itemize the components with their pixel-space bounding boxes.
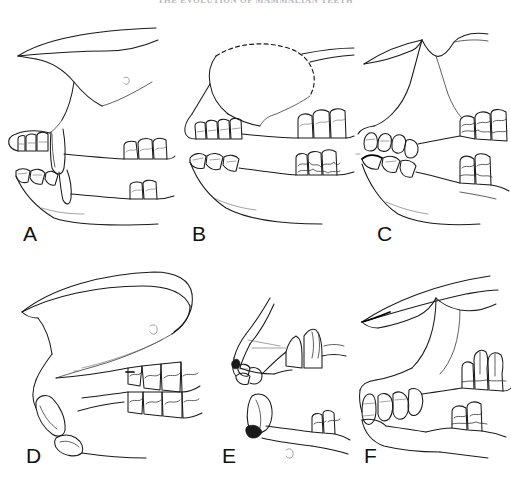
panel-e-mandible	[246, 394, 350, 454]
panel-f-upper-teeth	[362, 350, 511, 424]
panel-label-f: F	[364, 445, 377, 466]
running-head: THE EVOLUTION OF MAMMALIAN TEETH	[0, 0, 511, 3]
panel-c-upper-dentition	[364, 110, 507, 158]
panel-b-upper-dentition	[195, 109, 354, 139]
panel-d-lower-cheek-teeth	[78, 392, 202, 458]
panel-f	[356, 270, 511, 466]
panel-b	[182, 26, 354, 226]
panel-f-rostrum	[360, 276, 498, 412]
panel-d-upper-cheek-teeth	[56, 362, 200, 392]
panel-b-reconstructed-cranium	[216, 44, 354, 96]
panel-a-upper-dentition	[18, 129, 175, 174]
panel-c-skull-outline	[358, 33, 488, 134]
panel-label-a: A	[23, 223, 37, 244]
figure-page: THE EVOLUTION OF MAMMALIAN TEETH	[0, 0, 511, 490]
panel-label-e: E	[222, 445, 236, 466]
panel-a	[6, 26, 176, 226]
panel-b-mandible	[190, 150, 354, 224]
panel-e	[212, 296, 352, 466]
panel-a-foramen-mark	[124, 77, 129, 84]
figure-plate: A	[0, 8, 511, 490]
panel-d-rostrum	[22, 272, 192, 408]
panel-label-b: B	[192, 223, 206, 244]
panel-e-upper-incisors	[232, 352, 286, 385]
panel-a-mandible	[16, 169, 174, 225]
panel-b-skull-outline	[185, 56, 310, 139]
panel-e-upper-cheek-teeth	[274, 329, 346, 374]
panel-d	[12, 266, 207, 466]
panel-label-d: D	[26, 445, 41, 466]
panel-f-mandible	[362, 402, 506, 458]
panel-d-foramen-mark	[150, 325, 157, 334]
panel-c	[356, 26, 511, 226]
panel-c-mandible	[362, 154, 509, 225]
panel-e-foramen-mark	[286, 449, 293, 458]
panel-d-incisor	[36, 395, 83, 455]
panel-label-c: C	[377, 223, 392, 244]
panel-a-skull-outline	[9, 28, 158, 151]
